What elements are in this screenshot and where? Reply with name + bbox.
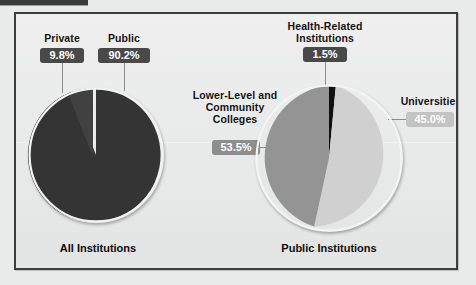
caption-title-all: All Institutions xyxy=(18,242,178,256)
figure-inner: Private Public 9.8% 90.2% All Inst xyxy=(16,14,456,268)
label-universities: Universities xyxy=(391,95,456,107)
label-private: Private xyxy=(34,32,90,44)
pie-public-institutions xyxy=(255,84,403,232)
label-health-related-institutions: Health-Related Institutions xyxy=(261,20,389,44)
caption-all-institutions: All Institutions (Total 1,228,897) xyxy=(18,228,178,268)
badge-health-related-percent: 1.5% xyxy=(303,47,347,62)
leader-line-private xyxy=(62,63,63,93)
page-crop-artifact-bar xyxy=(0,0,88,6)
figure-frame: Private Public 9.8% 90.2% All Inst xyxy=(14,12,458,270)
label-public: Public xyxy=(96,32,152,44)
pie-all-institutions xyxy=(28,87,164,223)
caption-title-public: Public Institutions xyxy=(249,242,409,256)
leader-line-public xyxy=(124,63,125,91)
badge-universities-percent: 45.0% xyxy=(406,112,454,127)
caption-public-institutions: Public Institutions (Total 1,108,787) xyxy=(249,228,409,268)
badge-public-percent: 90.2% xyxy=(98,48,150,63)
badge-private-percent: 9.8% xyxy=(40,48,84,63)
badge-community-colleges-percent: 53.5% xyxy=(212,140,260,155)
